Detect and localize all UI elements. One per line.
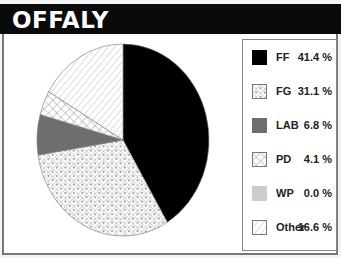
pd-swatch-icon bbox=[252, 152, 267, 167]
legend-item-wp: WP 0.0 % bbox=[252, 186, 334, 202]
chart-panel: FF 41.4 % FG 31.1 % LAB 6.8 % PD 4.1 % W… bbox=[2, 34, 338, 255]
legend-item-other: Other 16.6 % bbox=[252, 220, 334, 236]
legend: FF 41.4 % FG 31.1 % LAB 6.8 % PD 4.1 % W… bbox=[242, 39, 337, 251]
fg-swatch-icon bbox=[252, 84, 267, 99]
legend-value: 31.1 % bbox=[298, 85, 332, 97]
page-title: OFFALY bbox=[12, 7, 109, 33]
legend-value: 4.1 % bbox=[304, 153, 332, 165]
pie-slices bbox=[37, 44, 209, 236]
pie-chart bbox=[6, 36, 240, 252]
legend-item-fg: FG 31.1 % bbox=[252, 84, 334, 100]
lab-swatch-icon bbox=[252, 118, 267, 133]
legend-label: FG bbox=[276, 85, 291, 97]
legend-label: FF bbox=[276, 51, 289, 63]
wp-swatch-icon bbox=[252, 186, 267, 201]
legend-value: 6.8 % bbox=[304, 119, 332, 131]
legend-value: 41.4 % bbox=[298, 51, 332, 63]
legend-item-lab: LAB 6.8 % bbox=[252, 118, 334, 134]
ff-swatch-icon bbox=[252, 50, 267, 65]
legend-label: WP bbox=[276, 187, 294, 199]
title-bar: OFFALY bbox=[0, 4, 341, 34]
legend-label: LAB bbox=[276, 119, 299, 131]
other-swatch-icon bbox=[252, 220, 267, 235]
legend-item-ff: FF 41.4 % bbox=[252, 50, 334, 66]
legend-item-pd: PD 4.1 % bbox=[252, 152, 334, 168]
legend-label: PD bbox=[276, 153, 291, 165]
legend-value: 0.0 % bbox=[304, 187, 332, 199]
legend-value: 16.6 % bbox=[298, 221, 332, 233]
